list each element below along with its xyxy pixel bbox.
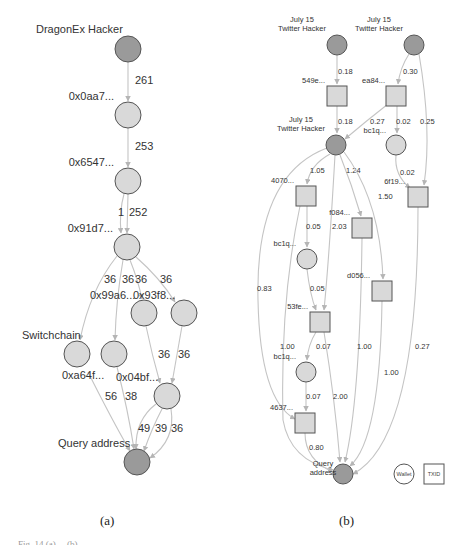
edge-amount-label: 1.24 xyxy=(346,166,361,175)
edge: 0.05 xyxy=(306,206,321,247)
node-label: July 15Twitter Hacker xyxy=(278,15,326,33)
txid-node-shape xyxy=(352,218,372,238)
node-b-bc1q-b[interactable]: bc1q... xyxy=(273,239,317,269)
wallet-node-shape xyxy=(154,383,180,409)
edge-amount-label: 36 xyxy=(135,273,147,285)
txid-node-shape xyxy=(372,281,392,301)
node-a-91d7[interactable]: 0x91d7... xyxy=(68,222,140,260)
edge-amount-label: 36 xyxy=(158,348,170,360)
node-b-53fe[interactable]: 53fe... xyxy=(287,302,330,332)
edge-amount-label: 36 xyxy=(160,273,172,285)
wallet-node-shape xyxy=(124,449,150,475)
edge: 0.02 xyxy=(396,106,411,133)
node-b-hacker3[interactable]: July 15Twitter Hacker xyxy=(277,115,346,155)
node-a-hacker[interactable]: DragonEx Hacker xyxy=(36,23,141,62)
edge: 2.03 xyxy=(324,155,347,310)
node-b-hacker1[interactable]: July 15Twitter Hacker xyxy=(278,15,347,55)
node-b-549e[interactable]: 549e... xyxy=(302,76,347,106)
node-b-bc1q-a[interactable]: bc1q... xyxy=(363,126,406,155)
node-a-6547[interactable]: 0x6547... xyxy=(69,156,141,194)
legend-label: Wallet xyxy=(396,471,412,477)
node-label: ea84... xyxy=(362,76,385,85)
node-b-d056[interactable]: d056... xyxy=(347,271,392,301)
edge-amount-label: 0.02 xyxy=(396,117,411,126)
edge-line xyxy=(307,332,316,360)
edge: 2.00 xyxy=(324,332,348,462)
node-label: bc1q... xyxy=(273,352,296,361)
node-b-bc1q-c[interactable]: bc1q... xyxy=(273,352,316,382)
edge: 0.18 xyxy=(337,55,353,84)
edge-amount-label: 36 xyxy=(171,422,183,434)
node-label: d056... xyxy=(347,271,370,280)
node-label: 53fe... xyxy=(287,302,308,311)
panel-a-nodes: DragonEx Hacker0x0aa7...0x6547...0x91d7.… xyxy=(22,23,197,475)
node-label: bc1q... xyxy=(363,126,386,135)
txid-node-shape xyxy=(310,312,330,332)
edge-amount-label: 0.25 xyxy=(420,117,435,126)
node-label: Queryaddress xyxy=(310,459,337,477)
legend: WalletTXID xyxy=(394,464,444,484)
txid-node-shape xyxy=(296,186,316,206)
txid-node-shape xyxy=(327,86,347,106)
node-label: July 15Twitter Hacker xyxy=(355,15,403,33)
node-a-0aa7[interactable]: 0x0aa7... xyxy=(69,90,141,128)
panel-a-diagram: 26125312523636363636365638493936 DragonE… xyxy=(22,23,197,475)
edge: 0.07 xyxy=(306,382,321,411)
wallet-node-shape xyxy=(326,135,346,155)
edge: 0.27 xyxy=(353,207,430,474)
edge: 0.18 xyxy=(337,106,353,133)
node-label: f084... xyxy=(329,208,350,217)
wallet-node-shape xyxy=(386,135,406,155)
node-label: 0x0aa7... xyxy=(69,90,114,102)
edge-amount-label: 1.05 xyxy=(310,166,325,175)
node-a-switchchain[interactable]: Switchchain xyxy=(22,329,90,367)
wallet-node-shape xyxy=(131,300,157,326)
legend-item-wallet: Wallet xyxy=(394,464,414,484)
edge-amount-label: 39 xyxy=(155,422,167,434)
edge: 0.25 xyxy=(419,54,435,185)
edge-line xyxy=(127,194,128,233)
node-b-query[interactable]: Queryaddress xyxy=(310,459,353,484)
edge: 1.00 xyxy=(350,301,399,466)
txid-node-shape xyxy=(386,86,406,106)
txid-node-shape xyxy=(295,413,315,433)
node-label: 0x91d7... xyxy=(68,222,113,234)
edge: 252 xyxy=(127,194,147,233)
node-label: 6f19... xyxy=(384,177,405,186)
wallet-node-shape xyxy=(404,35,424,55)
edge-amount-label: 1 xyxy=(118,206,124,218)
edge-line xyxy=(340,155,361,216)
edge: 0.30 xyxy=(398,54,418,84)
wallet-node-shape xyxy=(297,249,317,269)
edge-amount-label: 0.18 xyxy=(338,117,353,126)
edge-line xyxy=(353,207,418,474)
edge-amount-label: 36 xyxy=(178,348,190,360)
edge: 1.05 xyxy=(307,154,330,184)
panel-b-nodes: July 15Twitter HackerJuly 15Twitter Hack… xyxy=(270,15,428,484)
wallet-node-shape xyxy=(296,362,316,382)
edge-amount-label: 0.05 xyxy=(306,222,321,231)
node-b-ea84[interactable]: ea84... xyxy=(362,76,406,106)
node-label: Switchchain xyxy=(22,329,81,341)
edge-amount-label: 2.00 xyxy=(333,392,348,401)
legend-item-txid: TXID xyxy=(424,464,444,484)
edge-amount-label: 0.80 xyxy=(309,443,324,452)
edge-amount-label: 0.83 xyxy=(257,284,272,293)
edge-amount-label: 2.03 xyxy=(332,222,347,231)
panel-b-label: (b) xyxy=(339,513,354,529)
panel-b-diagram: 0.180.300.250.180.270.020.021.051.241.50… xyxy=(257,15,444,484)
edge-amount-label: 261 xyxy=(135,74,153,86)
wallet-node-shape xyxy=(115,102,141,128)
wallet-node-shape xyxy=(171,300,197,326)
edge-amount-label: 252 xyxy=(129,206,147,218)
edge: 1.24 xyxy=(340,155,361,216)
node-label: 0x93f8... xyxy=(133,289,175,301)
panel-a-label: (a) xyxy=(100,513,114,529)
node-label: 0x04bf... xyxy=(116,371,158,383)
node-label: 4070... xyxy=(271,176,294,185)
edge-amount-label: 1.50 xyxy=(378,192,393,201)
edge: 1 xyxy=(118,194,124,233)
node-label: 0x6547... xyxy=(69,156,114,168)
edge-amount-label: 0.30 xyxy=(403,67,418,76)
node-b-hacker2[interactable]: July 15Twitter Hacker xyxy=(355,15,424,55)
